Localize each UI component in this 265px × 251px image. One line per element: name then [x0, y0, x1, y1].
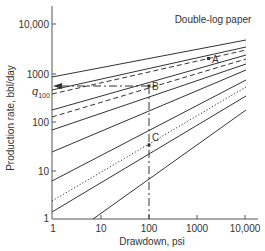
line-10 — [93, 110, 246, 219]
xtick-10000: 10,000 — [230, 223, 261, 234]
ytick-10: 10 — [38, 166, 50, 177]
x-axis-title: Drawdown, psi — [119, 236, 185, 247]
xtick-1000: 1000 — [186, 223, 209, 234]
ytick-10000: 10,000 — [18, 19, 49, 30]
point-b-label: B — [152, 81, 159, 92]
ytick-100: 100 — [32, 117, 49, 128]
chart-title: Double-log paper — [175, 14, 252, 25]
point-c-label: C — [152, 132, 159, 143]
point-b-marker — [148, 85, 151, 88]
ytick-1: 1 — [43, 213, 49, 224]
xtick-10: 10 — [95, 223, 107, 234]
double-log-chart: 10,000 1000 100 10 1 q100 1 10 100 1000 … — [0, 0, 265, 251]
arrow-head-icon — [53, 83, 62, 89]
xtick-100: 100 — [141, 223, 158, 234]
point-a-marker — [207, 57, 210, 60]
q100-label: q100 — [32, 85, 50, 99]
xtick-1: 1 — [50, 223, 56, 234]
point-c-marker — [148, 144, 151, 147]
ytick-1000: 1000 — [27, 69, 50, 80]
point-a-label: A — [212, 54, 219, 65]
axes — [52, 6, 258, 219]
y-axis-title: Production rate, bbl/day — [5, 65, 16, 171]
